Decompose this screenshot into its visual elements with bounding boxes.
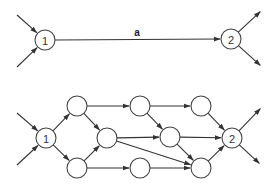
single-activity-network: a12 <box>17 12 260 67</box>
edge-arrow <box>238 12 260 32</box>
edge-arrow <box>17 145 38 165</box>
node-label: 1 <box>42 35 48 47</box>
node-2: 2 <box>222 128 242 148</box>
node-label: 1 <box>43 133 49 145</box>
edge-label: a <box>134 27 140 38</box>
edge-arrow <box>177 144 193 160</box>
edge-arrow <box>117 141 191 165</box>
edge-arrow <box>180 137 221 138</box>
edge-arrow <box>208 146 224 161</box>
node-intermediate <box>191 96 211 116</box>
node-label: 2 <box>228 34 234 46</box>
edge-arrow <box>239 145 259 164</box>
edge-arrow <box>17 113 38 131</box>
edge-arrow <box>17 48 37 67</box>
edge-arrow <box>55 39 220 40</box>
node-intermediate <box>97 128 117 148</box>
expanded-activity-network: 12 <box>17 96 260 178</box>
node-intermediate <box>130 96 150 116</box>
edge-arrow <box>53 114 69 131</box>
node-label: 2 <box>229 133 235 145</box>
edge-arrow <box>17 15 37 33</box>
node-1: 1 <box>35 30 55 50</box>
edge-arrow <box>208 113 224 130</box>
node-intermediate <box>130 158 150 178</box>
node-intermediate <box>191 158 211 178</box>
edge-arrow <box>147 113 162 129</box>
node-intermediate <box>160 127 180 147</box>
node-intermediate <box>67 158 87 178</box>
node-intermediate <box>67 96 87 116</box>
edge-arrow <box>117 137 159 138</box>
edge-arrow <box>239 109 260 131</box>
network-diagram: a12 12 <box>0 0 274 185</box>
node-1: 1 <box>36 128 56 148</box>
edge-arrow <box>53 145 69 160</box>
node-2: 2 <box>221 29 241 49</box>
edge-arrow <box>84 146 99 161</box>
edge-arrow <box>84 113 100 130</box>
edge-arrow <box>238 46 260 66</box>
